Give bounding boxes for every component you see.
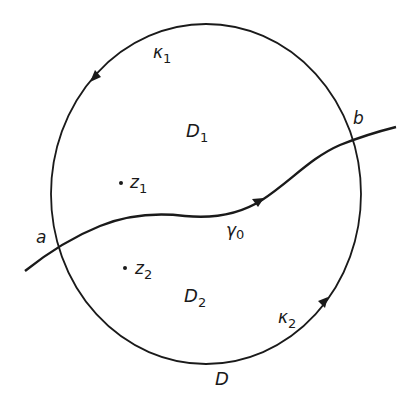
diagram-canvas: κ1 D1 b z1 γ0 a z2 D2 κ2 D [0, 0, 417, 400]
label-D2: D2 [184, 285, 206, 310]
label-gamma0: γ0 [226, 220, 244, 242]
label-b: b [353, 108, 364, 128]
label-z2: z2 [134, 258, 152, 282]
label-kappa1: κ1 [153, 42, 171, 66]
label-kappa2: κ2 [278, 307, 296, 331]
label-D: D [215, 368, 229, 389]
curve-gamma0 [25, 127, 396, 271]
label-z1: z1 [129, 172, 147, 196]
point-z2-dot [123, 266, 127, 270]
label-a: a [36, 227, 46, 247]
point-z1-dot [119, 181, 123, 185]
label-D1: D1 [186, 120, 208, 145]
